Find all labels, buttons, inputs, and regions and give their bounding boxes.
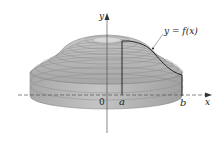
curve-point (152, 48, 154, 50)
b-label: b (180, 97, 186, 108)
shell-method-figure: y x 0 a b y = f(x) (0, 0, 223, 144)
a-label: a (119, 96, 125, 107)
solid-of-revolution-diagram: y x 0 a b y = f(x) (0, 0, 223, 144)
origin-label: 0 (99, 97, 105, 107)
y-axis-label: y (98, 11, 105, 21)
curve-label-leader (153, 34, 163, 48)
curve-label: y = f(x) (163, 26, 198, 36)
x-axis-label: x (205, 97, 210, 107)
y-axis-arrow-icon (105, 13, 110, 20)
